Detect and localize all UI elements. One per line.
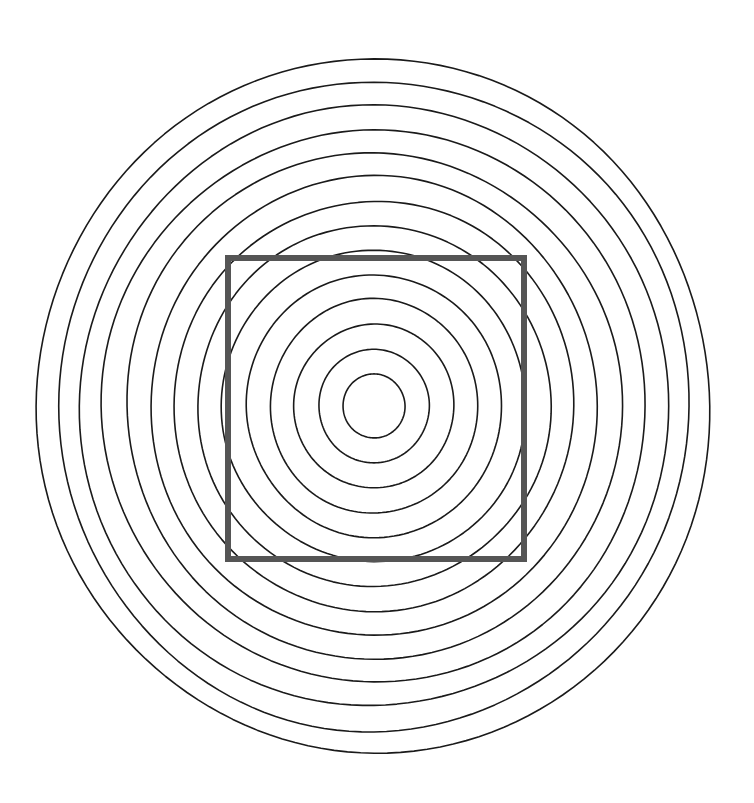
figure-root: Concentric ellipses with overlaid gray s… — [0, 0, 754, 803]
concentric-circles-figure — [0, 0, 754, 803]
